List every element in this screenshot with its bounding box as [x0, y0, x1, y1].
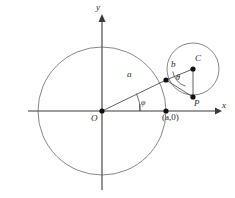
origin-label: O	[91, 114, 98, 123]
angle-theta-label: θ	[176, 74, 180, 82]
x-axis-label: x	[222, 101, 226, 110]
angle-phi-label: φ	[141, 99, 145, 107]
center-C-label: C	[195, 54, 201, 63]
segment-O-to-tangent-point	[102, 80, 166, 111]
radius-a-label: a	[127, 70, 132, 79]
segment-tangent-point-to-P	[166, 80, 193, 97]
geometry-figure: x y O a b C P φ θ (a,0)	[0, 0, 235, 198]
y-axis-label: y	[96, 3, 100, 12]
angle-phi-arc	[137, 94, 141, 111]
y-axis-arrowhead	[99, 14, 106, 22]
x-axis-arrowhead	[215, 108, 222, 115]
point-a-zero-label: (a,0)	[162, 113, 179, 122]
point-C-dot	[190, 66, 195, 71]
point-P-label: P	[194, 99, 200, 108]
radius-b-label: b	[171, 60, 176, 69]
point-origin-dot	[99, 108, 104, 113]
point-tangent-dot	[163, 77, 168, 82]
